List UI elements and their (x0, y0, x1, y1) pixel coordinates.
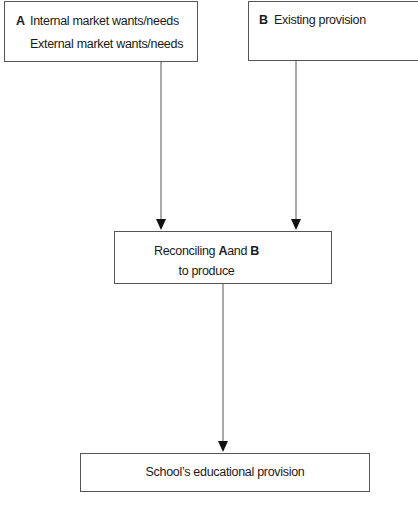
arrow-a-to-reconcile (156, 62, 166, 230)
arrow-reconcile-to-output (218, 284, 228, 452)
arrow-b-head (291, 219, 301, 230)
arrow-a-head (156, 219, 166, 230)
arrow-b-to-reconcile (291, 61, 301, 230)
arrow-c-head (218, 441, 228, 452)
